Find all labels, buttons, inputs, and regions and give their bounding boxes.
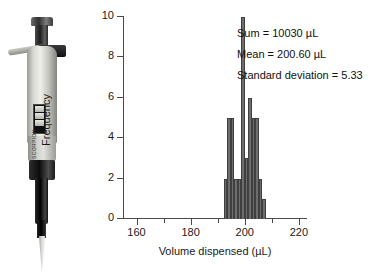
x-tick-180 (191, 219, 192, 225)
histogram-bars (123, 16, 307, 219)
x-axis-title: Volume dispensed (µL) (123, 245, 307, 257)
y-tick-label-6: 6 (92, 91, 114, 102)
x-tick-label-160: 160 (117, 226, 157, 238)
histogram-plot: 0246810 160180200220 Frequency Volume di… (0, 0, 368, 277)
y-tick-label-0: 0 (92, 212, 114, 223)
annotation-standard-deviation: Standard deviation = 5.33 (237, 69, 363, 82)
x-tick-label-220: 220 (279, 226, 319, 238)
x-tick-minor-190 (218, 219, 219, 223)
x-tick-220 (299, 219, 300, 225)
x-tick-label-180: 180 (171, 226, 211, 238)
y-tick-label-8: 8 (92, 50, 114, 61)
annotation-mean: Mean = 200.60 µL (237, 48, 326, 61)
y-axis-title: Frequency (40, 85, 52, 155)
x-tick-minor-170 (164, 219, 165, 223)
y-tick-label-10: 10 (92, 10, 114, 21)
annotation-sum: Sum = 10030 µL (237, 27, 318, 40)
x-tick-160 (137, 219, 138, 225)
x-tick-200 (245, 219, 246, 225)
x-tick-minor-210 (272, 219, 273, 223)
y-tick-label-2: 2 (92, 172, 114, 183)
figure-container: SCORPION 0246810 160180200220 Frequency … (0, 0, 368, 277)
y-tick-label-4: 4 (92, 131, 114, 142)
x-tick-label-200: 200 (225, 226, 265, 238)
histogram-bar (262, 199, 266, 219)
